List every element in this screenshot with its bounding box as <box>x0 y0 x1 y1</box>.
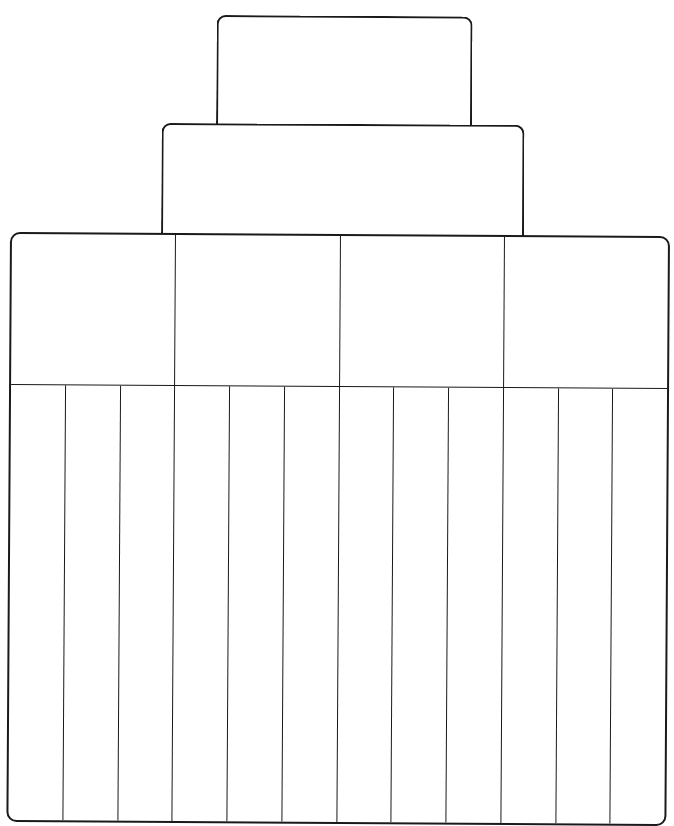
subcategory-cell <box>556 388 613 823</box>
second-level-box <box>161 123 525 239</box>
category-cell-3 <box>340 236 505 387</box>
subcategory-cell <box>611 389 667 824</box>
subcategory-cell <box>501 388 558 823</box>
category-cell-2 <box>175 235 340 386</box>
top-level-label <box>218 17 471 129</box>
subcategory-cell <box>446 388 503 823</box>
subcategory-cell <box>282 387 339 822</box>
category-cell-4 <box>504 237 668 388</box>
subcategory-cell <box>63 385 120 820</box>
top-level-box <box>216 15 473 129</box>
subcategory-row <box>8 385 667 824</box>
subcategory-cell <box>337 387 394 822</box>
subcategory-cell <box>392 387 449 822</box>
subcategory-cell <box>118 386 175 821</box>
subcategory-cell <box>227 386 284 821</box>
category-row <box>11 234 668 389</box>
category-grid <box>6 232 670 826</box>
second-level-label <box>163 125 523 239</box>
category-cell-1 <box>11 234 176 385</box>
subcategory-cell <box>173 386 230 821</box>
subcategory-cell <box>8 385 65 820</box>
